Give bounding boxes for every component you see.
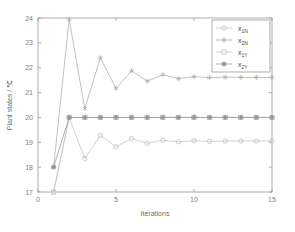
x-tick-label: 0 bbox=[36, 196, 40, 203]
data-marker-core bbox=[162, 116, 164, 118]
data-marker-core bbox=[68, 116, 70, 118]
x-tick-label: 10 bbox=[190, 196, 198, 203]
data-marker-core bbox=[224, 116, 226, 118]
y-axis-title: Plant states / ℃ bbox=[6, 80, 13, 130]
data-marker-core bbox=[223, 63, 225, 65]
data-marker-core bbox=[146, 116, 148, 118]
y-tick-label: 17 bbox=[25, 189, 33, 196]
data-marker-core bbox=[131, 116, 133, 118]
data-marker-core bbox=[177, 116, 179, 118]
plot-canvas: 1718192021222324051015IterationsPlant st… bbox=[0, 0, 295, 232]
x-axis-title: Iterations bbox=[141, 210, 170, 217]
legend: x1Nx2Nx1Yx2Y bbox=[212, 20, 270, 72]
series-x_1N bbox=[51, 115, 274, 194]
y-tick-label: 18 bbox=[25, 164, 33, 171]
x-tick-label: 5 bbox=[114, 196, 118, 203]
data-marker-core bbox=[255, 116, 257, 118]
y-tick-label: 21 bbox=[25, 89, 33, 96]
x-tick-label: 15 bbox=[268, 196, 276, 203]
data-marker-core bbox=[193, 116, 195, 118]
data-marker-core bbox=[209, 116, 211, 118]
y-tick-label: 22 bbox=[25, 64, 33, 71]
legend-sub: 1Y bbox=[242, 52, 249, 58]
data-marker-core bbox=[115, 116, 117, 118]
data-marker-core bbox=[53, 166, 55, 168]
data-marker-core bbox=[99, 116, 101, 118]
legend-sub: 1N bbox=[242, 28, 249, 34]
legend-sub: 2Y bbox=[242, 64, 249, 70]
y-tick-label: 23 bbox=[25, 39, 33, 46]
y-tick-label: 24 bbox=[25, 15, 33, 22]
series-line-x_1Y bbox=[54, 117, 272, 192]
series-line-x_1N bbox=[54, 117, 272, 192]
chart-figure: 1718192021222324051015IterationsPlant st… bbox=[0, 0, 295, 232]
y-tick-label: 19 bbox=[25, 139, 33, 146]
y-tick-label: 20 bbox=[25, 114, 33, 121]
series-x_1Y bbox=[51, 115, 274, 194]
data-marker-core bbox=[240, 116, 242, 118]
data-marker-core bbox=[84, 116, 86, 118]
data-marker-core bbox=[271, 116, 273, 118]
legend-sub: 2N bbox=[242, 40, 249, 46]
